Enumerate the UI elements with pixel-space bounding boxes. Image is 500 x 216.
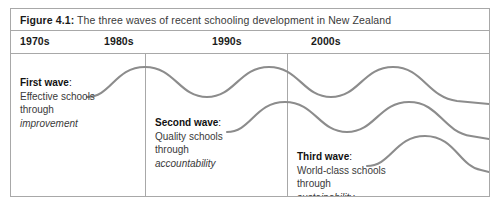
wave-label-second: Second wave: Quality schools through acc… xyxy=(155,116,223,170)
waves-plot-area: First wave: Effective schools through im… xyxy=(11,54,489,196)
wave-line1-first: Effective schools xyxy=(20,90,95,104)
wave-colon-third: : xyxy=(349,151,352,162)
wave-curve-second xyxy=(227,102,489,139)
figure-container: Figure 4.1: The three waves of recent sc… xyxy=(10,8,490,197)
wave-colon-first: : xyxy=(69,77,72,88)
wave-line2-first: through xyxy=(20,103,95,117)
figure-caption-row: Figure 4.1: The three waves of recent sc… xyxy=(11,9,489,31)
wave-heading-third: Third wave xyxy=(297,151,349,162)
wave-emphasis-third: sustainability xyxy=(297,191,386,197)
wave-line1-third: World-class schools xyxy=(297,164,386,178)
timeline-decades-row: 1970s 1980s 1990s 2000s xyxy=(11,31,489,54)
wave-line2-second: through xyxy=(155,143,223,157)
figure-caption-label: Figure 4.1: xyxy=(20,14,74,26)
decade-label-2000s: 2000s xyxy=(311,35,341,47)
decade-label-1990s: 1990s xyxy=(212,35,242,47)
figure-caption-text: The three waves of recent schooling deve… xyxy=(74,14,391,26)
decade-label-1970s: 1970s xyxy=(20,35,50,47)
wave-emphasis-second: accountability xyxy=(155,157,223,171)
wave-line1-second: Quality schools xyxy=(155,130,223,144)
wave-curve-first xyxy=(87,67,489,104)
wave-colon-second: : xyxy=(218,117,221,128)
wave-line2-third: through xyxy=(297,177,386,191)
wave-label-third: Third wave: World-class schools through … xyxy=(297,150,386,197)
figure-caption: Figure 4.1: The three waves of recent sc… xyxy=(11,14,391,26)
decade-label-1980s: 1980s xyxy=(104,35,134,47)
wave-heading-second: Second wave xyxy=(155,117,218,128)
wave-emphasis-first: improvement xyxy=(20,117,95,131)
wave-label-first: First wave: Effective schools through im… xyxy=(20,76,95,130)
wave-heading-first: First wave xyxy=(20,77,69,88)
